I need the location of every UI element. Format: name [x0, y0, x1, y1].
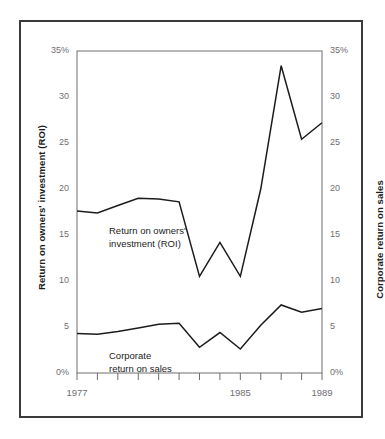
y-axis-tick-label-left: 10 [33, 275, 69, 285]
y-axis-tick-label-right: 15 [330, 229, 366, 239]
y-axis-tick-label-right: 20 [330, 183, 366, 193]
y-axis-tick-label-left: 0% [33, 367, 69, 377]
series-line-sales [77, 305, 322, 349]
y-axis-tick-label-right: 0% [330, 367, 366, 377]
y-axis-tick-label-left: 15 [33, 229, 69, 239]
x-axis-tick-label: 1985 [218, 387, 262, 398]
series-annotation-sales: Corporatereturn on sales [109, 350, 172, 375]
series-annotation-roi-line1: Return on owners' [109, 225, 186, 236]
x-axis-tick-label: 1989 [300, 387, 344, 398]
series-annotation-roi: Return on owners'investment (ROI) [109, 225, 186, 250]
y-axis-tick-label-left: 35% [33, 45, 69, 55]
y-axis-tick-label-left: 25 [33, 137, 69, 147]
chart-plot-svg [21, 22, 361, 416]
y-axis-tick-label-left: 20 [33, 183, 69, 193]
y-axis-tick-label-right: 25 [330, 137, 366, 147]
series-annotation-sales-line2: return on sales [109, 363, 172, 374]
chart-outer-frame: Return on owners' investment (ROI) Corpo… [19, 20, 363, 418]
y-axis-tick-label-right: 10 [330, 275, 366, 285]
y-axis-tick-label-left: 5 [33, 321, 69, 331]
y-axis-tick-label-right: 30 [330, 91, 366, 101]
y-axis-title-right: Corporate return on sales [374, 140, 385, 340]
x-axis-tick-label: 1977 [55, 387, 99, 398]
series-annotation-roi-line2: investment (ROI) [109, 238, 181, 249]
y-axis-tick-label-left: 30 [33, 91, 69, 101]
series-annotation-sales-line1: Corporate [109, 350, 151, 361]
plot-area-border [77, 51, 322, 373]
y-axis-tick-label-right: 5 [330, 321, 366, 331]
y-axis-tick-label-right: 35% [330, 45, 366, 55]
